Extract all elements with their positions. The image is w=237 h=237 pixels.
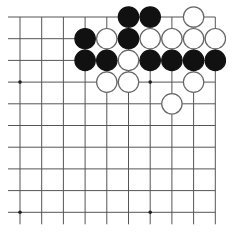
black-stone[interactable] bbox=[162, 50, 182, 70]
star-point bbox=[18, 80, 22, 84]
white-stone[interactable] bbox=[162, 29, 182, 49]
white-stone[interactable] bbox=[162, 94, 182, 114]
star-point bbox=[18, 211, 22, 215]
white-stone[interactable] bbox=[183, 72, 203, 92]
star-point bbox=[148, 211, 152, 215]
black-stone[interactable] bbox=[140, 50, 160, 70]
black-stone[interactable] bbox=[118, 29, 138, 49]
black-stone[interactable] bbox=[205, 50, 225, 70]
black-stone[interactable] bbox=[75, 50, 95, 70]
white-stone[interactable] bbox=[118, 50, 138, 70]
white-stone[interactable] bbox=[140, 29, 160, 49]
black-stone[interactable] bbox=[97, 50, 117, 70]
white-stone[interactable] bbox=[183, 7, 203, 27]
white-stone[interactable] bbox=[97, 29, 117, 49]
star-point bbox=[148, 80, 152, 84]
black-stone[interactable] bbox=[140, 7, 160, 27]
white-stone[interactable] bbox=[118, 72, 138, 92]
black-stone[interactable] bbox=[118, 7, 138, 27]
black-stone[interactable] bbox=[183, 50, 203, 70]
black-stone[interactable] bbox=[75, 29, 95, 49]
white-stone[interactable] bbox=[205, 29, 225, 49]
white-stone[interactable] bbox=[97, 72, 117, 92]
go-board[interactable] bbox=[0, 0, 237, 237]
white-stone[interactable] bbox=[183, 29, 203, 49]
